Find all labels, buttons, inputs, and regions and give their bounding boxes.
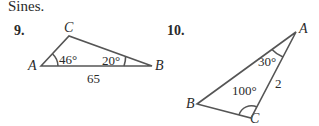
triangle-diagrams bbox=[0, 0, 319, 126]
angle-arc-a-icon bbox=[53, 54, 58, 66]
angle-arc-a-icon bbox=[272, 50, 283, 58]
triangle-10 bbox=[197, 32, 296, 118]
triangle-9 bbox=[41, 36, 152, 66]
angle-arc-b-icon bbox=[124, 57, 126, 67]
